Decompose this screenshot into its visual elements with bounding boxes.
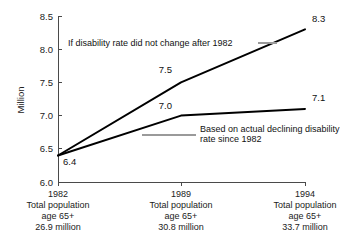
chart-container: Million 8.5 8.0 7.5 7.0 6.5 6.0 If disab… bbox=[0, 0, 354, 244]
y-tick-label-6-0: 6.0 bbox=[40, 177, 53, 188]
x-category-1989-line1: Total population bbox=[149, 200, 212, 210]
x-category-1994-year: 1994 bbox=[295, 189, 315, 199]
line-chart: Million 8.5 8.0 7.5 7.0 6.5 6.0 If disab… bbox=[0, 0, 354, 244]
y-axis-title: Million bbox=[15, 87, 26, 114]
y-tick-label-6-5: 6.5 bbox=[40, 143, 53, 154]
annotation-no-change-label: If disability rate did not change after … bbox=[68, 38, 233, 48]
x-category-1982-year: 1982 bbox=[48, 189, 68, 199]
x-category-1982-line2: age 65+ bbox=[42, 211, 75, 221]
data-label-origin-6-4: 6.4 bbox=[63, 156, 76, 167]
data-label-upper-1989-7-5: 7.5 bbox=[159, 64, 172, 75]
y-tick-label-7-5: 7.5 bbox=[40, 77, 53, 88]
data-label-lower-1989-7-0: 7.0 bbox=[159, 100, 172, 111]
series-line-no-change bbox=[58, 29, 305, 155]
data-label-upper-1994-8-3: 8.3 bbox=[312, 13, 325, 24]
x-category-1982-line3: 26.9 million bbox=[35, 222, 81, 232]
x-category-1994-line1: Total population bbox=[273, 200, 336, 210]
x-category-1994-line3: 33.7 million bbox=[282, 222, 328, 232]
x-category-1989-line2: age 65+ bbox=[165, 211, 198, 221]
data-label-lower-1994-7-1: 7.1 bbox=[312, 92, 325, 103]
x-category-1989-year: 1989 bbox=[171, 189, 191, 199]
x-category-1994-line2: age 65+ bbox=[289, 211, 322, 221]
y-tick-label-7-0: 7.0 bbox=[40, 110, 53, 121]
annotation-actual-decline-line1: Based on actual declining disability bbox=[200, 124, 340, 134]
y-tick-label-8-0: 8.0 bbox=[40, 44, 53, 55]
x-category-1989-line3: 30.8 million bbox=[158, 222, 204, 232]
y-tick-label-8-5: 8.5 bbox=[40, 11, 53, 22]
annotation-actual-decline-line2: rate since 1982 bbox=[200, 134, 262, 144]
x-category-1982-line1: Total population bbox=[26, 200, 89, 210]
